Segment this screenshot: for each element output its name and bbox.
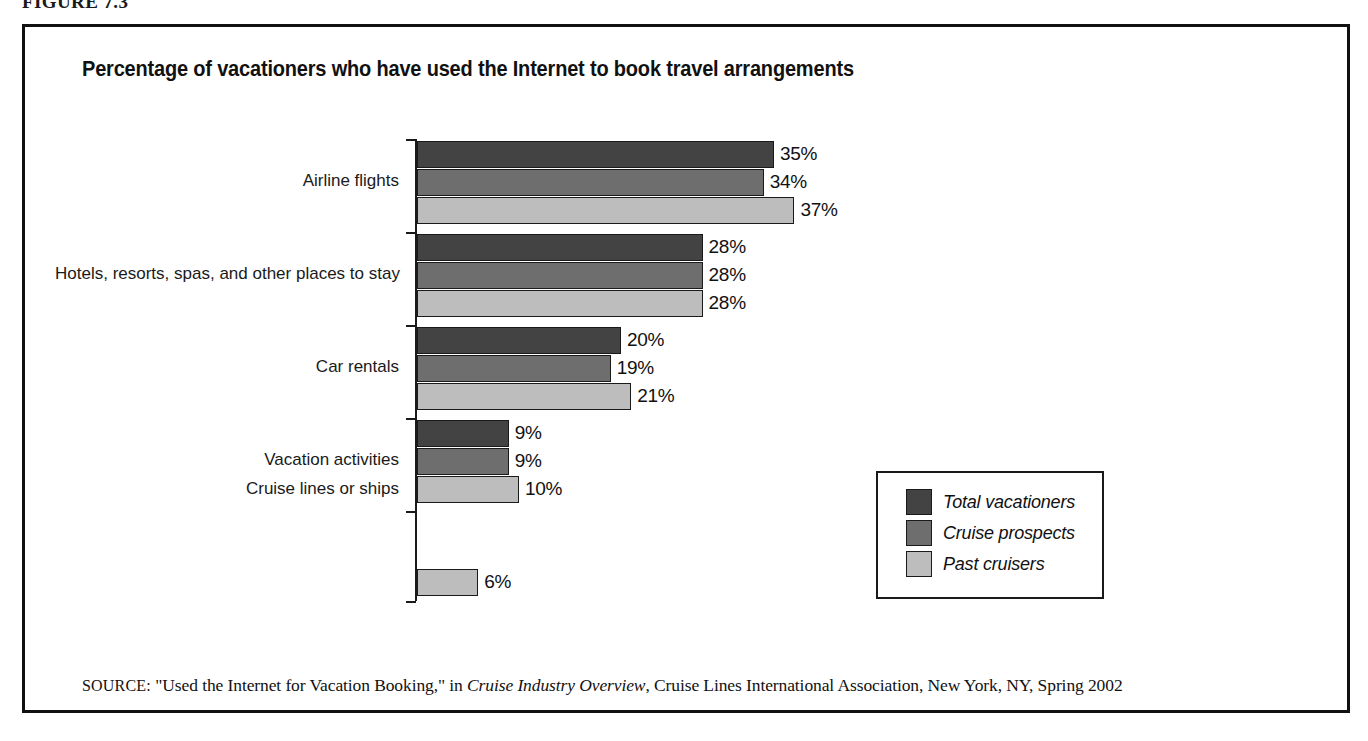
bar-row: 10% [417,476,1317,503]
bar[interactable] [417,355,611,382]
bar-row: 20% [417,327,1317,354]
axis-tick [406,418,416,420]
bar-row: 6% [417,569,1317,596]
bar[interactable] [417,234,703,261]
bar[interactable] [417,169,764,196]
category-label: Car rentals [55,357,415,377]
bar-value-label: 28% [709,264,746,286]
bar-row: 35% [417,141,1317,168]
bar[interactable] [417,383,631,410]
bar-value-label: 9% [515,450,542,472]
chart-title: Percentage of vacationers who have used … [82,57,854,82]
bar[interactable] [417,420,509,447]
category-label: Hotels, resorts, spas, and other places … [55,264,415,284]
category-label: Airline flights [55,171,415,191]
bar-value-label: 19% [617,357,654,379]
legend-item[interactable]: Total vacationers [906,489,1075,515]
bar[interactable] [417,569,478,596]
bar-row: 9% [417,448,1317,475]
figure-frame: Percentage of vacationers who have used … [22,24,1350,713]
bar-value-label: 20% [627,329,664,351]
bar-row: 34% [417,169,1317,196]
bar[interactable] [417,262,703,289]
bar[interactable] [417,290,703,317]
legend-swatch-icon [906,551,932,577]
bar-row: 28% [417,290,1317,317]
bar-row: 9% [417,420,1317,447]
legend-item[interactable]: Past cruisers [906,551,1044,577]
axis-tick [406,325,416,327]
legend-label: Past cruisers [943,554,1044,575]
bar-value-label: 21% [637,385,674,407]
axis-tick [406,232,416,234]
source-publication: Cruise Industry Overview [467,675,645,695]
bar-value-label: 34% [770,171,807,193]
category-label: Vacation activities [55,450,415,470]
bar[interactable] [417,448,509,475]
bar[interactable] [417,141,774,168]
source-label: SOURCE: [82,677,151,694]
bar[interactable] [417,476,519,503]
source-note: SOURCE: "Used the Internet for Vacation … [82,675,1342,696]
legend-label: Cruise prospects [943,523,1075,544]
bar[interactable] [417,197,794,224]
bar-value-label: 6% [484,571,511,593]
legend-item[interactable]: Cruise prospects [906,520,1075,546]
axis-tick [406,139,416,141]
bar-value-label: 28% [709,292,746,314]
plot-area: Airline flights35%34%37%Hotels, resorts,… [25,127,1353,627]
bar-row: 21% [417,383,1317,410]
bar-row: 28% [417,262,1317,289]
bar-row: 19% [417,355,1317,382]
figure-number: FIGURE 7.3 [22,0,128,13]
bar-row: 28% [417,234,1317,261]
source-text-after: , Cruise Lines International Association… [645,675,1122,695]
legend-swatch-icon [906,520,932,546]
bar-value-label: 9% [515,422,542,444]
category-label: Cruise lines or ships [55,479,415,499]
source-text-before: "Used the Internet for Vacation Booking,… [151,675,467,695]
legend-label: Total vacationers [943,492,1075,513]
bar-value-label: 10% [525,478,562,500]
legend-swatch-icon [906,489,932,515]
chart-legend: Total vacationersCruise prospectsPast cr… [876,471,1104,599]
axis-tick [406,511,416,513]
bar-row: 37% [417,197,1317,224]
bar-value-label: 28% [709,236,746,258]
bar-value-label: 37% [800,199,837,221]
axis-tick [406,601,416,603]
bar-value-label: 35% [780,143,817,165]
bar[interactable] [417,327,621,354]
